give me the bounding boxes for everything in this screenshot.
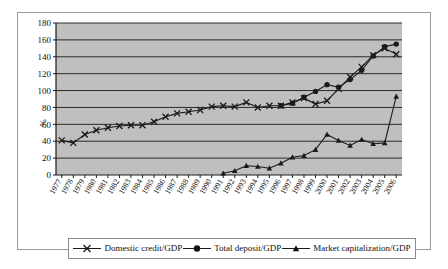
legend-label: Market capitalization/GDP [313, 244, 410, 253]
chart-legend: Domestic credit/GDP Total deposit/GDP Ma… [68, 238, 416, 259]
plot-background [56, 23, 402, 175]
x-axis-tick-labels: 1977197819791980198119821983198419851986… [48, 178, 398, 196]
chart-figure: 020406080100120140160180 197719781979198… [0, 0, 448, 269]
legend-marker-circle-icon [183, 243, 211, 254]
svg-text:140: 140 [38, 52, 52, 62]
legend-item-domestic-credit: Domestic credit/GDP [73, 243, 182, 254]
legend-item-market-capitalization: Market capitalization/GDP [282, 243, 410, 254]
svg-text:160: 160 [38, 35, 52, 45]
y-axis-label: % [38, 119, 48, 127]
line-chart: 020406080100120140160180 197719781979198… [18, 13, 430, 249]
svg-text:2006: 2006 [382, 178, 398, 196]
legend-marker-triangle-icon [282, 243, 310, 254]
svg-text:0: 0 [47, 170, 52, 180]
chart-border: 020406080100120140160180 197719781979198… [17, 12, 431, 250]
svg-text:40: 40 [42, 136, 52, 146]
svg-text:20: 20 [42, 153, 52, 163]
legend-item-total-deposit: Total deposit/GDP [183, 243, 281, 254]
legend-label: Total deposit/GDP [214, 244, 281, 253]
legend-marker-x-icon [73, 243, 101, 254]
legend-label: Domestic credit/GDP [104, 244, 182, 253]
svg-text:120: 120 [38, 69, 52, 79]
svg-text:80: 80 [42, 103, 52, 113]
y-axis-tick-labels: 020406080100120140160180 [38, 18, 52, 180]
svg-text:100: 100 [38, 86, 52, 96]
svg-text:180: 180 [38, 18, 52, 28]
